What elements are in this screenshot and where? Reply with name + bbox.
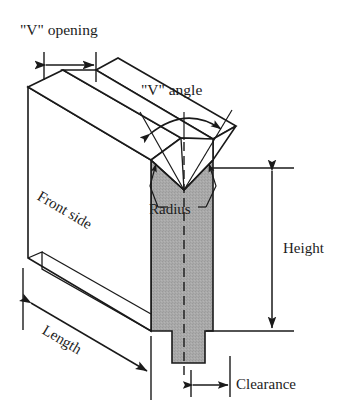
dimension-label-clearance: Clearance bbox=[236, 376, 296, 392]
dimension-label-length: Length bbox=[40, 322, 85, 358]
die-section-face bbox=[151, 160, 213, 363]
dimension-clearance: Clearance bbox=[191, 356, 296, 397]
dimension-label-v-opening: "V" opening bbox=[20, 21, 98, 38]
callout-label-radius: Radius bbox=[149, 201, 191, 217]
dimension-height: Height bbox=[206, 168, 325, 331]
dimension-label-v-angle: "V" angle bbox=[141, 81, 202, 98]
dimension-label-height: Height bbox=[283, 240, 325, 256]
v-die-illustration: "V" opening "V" angle Radius Front side bbox=[0, 0, 355, 416]
v-die-diagram: "V" opening "V" angle Radius Front side bbox=[0, 0, 355, 416]
